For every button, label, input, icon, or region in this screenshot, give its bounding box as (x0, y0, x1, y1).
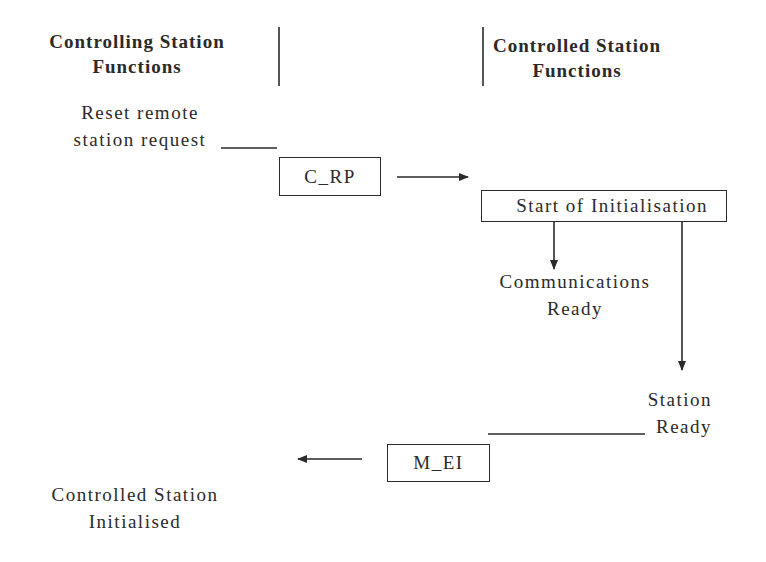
controlled-station-initialised-label: Controlled Station Initialised (30, 481, 240, 535)
m-ei-box: M_EI (387, 444, 490, 482)
start-of-initialisation-box: Start of Initialisation (481, 190, 727, 222)
label-line: Communications (480, 268, 670, 295)
start-of-initialisation-label: Start of Initialisation (516, 195, 708, 217)
header-line: Controlled Station (487, 33, 667, 58)
c-rp-label: C_RP (304, 166, 355, 188)
label-line: Ready (600, 413, 712, 440)
header-line: Functions (487, 58, 667, 83)
header-line: Functions (27, 54, 247, 79)
label-line: Reset remote (60, 99, 220, 126)
label-line: station request (60, 126, 220, 153)
label-line: Ready (480, 295, 670, 322)
communications-ready-label: Communications Ready (480, 268, 670, 322)
controlling-station-header: Controlling Station Functions (27, 29, 247, 79)
controlled-station-header: Controlled Station Functions (487, 33, 667, 83)
header-line: Controlling Station (27, 29, 247, 54)
m-ei-label: M_EI (413, 452, 463, 474)
reset-request-label: Reset remote station request (60, 99, 220, 153)
label-line: Station (600, 386, 712, 413)
label-line: Controlled Station (30, 481, 240, 508)
label-line: Initialised (30, 508, 240, 535)
station-ready-label: Station Ready (600, 386, 712, 440)
c-rp-box: C_RP (279, 157, 381, 196)
